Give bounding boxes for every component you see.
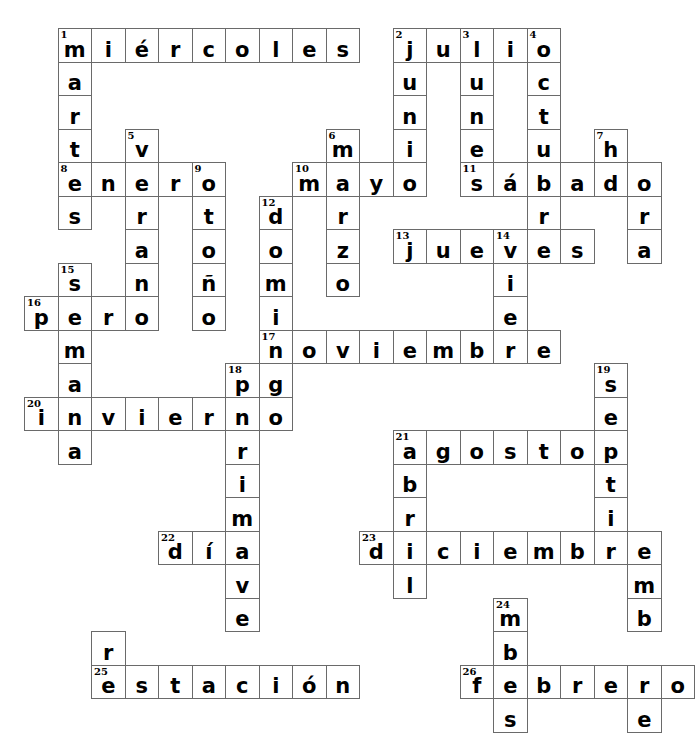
- crossword-cell[interactable]: 9o: [192, 162, 227, 197]
- crossword-cell[interactable]: í: [192, 531, 227, 566]
- crossword-cell[interactable]: i: [493, 28, 528, 63]
- crossword-cell[interactable]: b: [527, 665, 562, 700]
- crossword-cell[interactable]: a: [225, 531, 260, 566]
- crossword-cell[interactable]: b: [627, 598, 662, 633]
- crossword-cell[interactable]: r: [627, 196, 662, 231]
- crossword-cell[interactable]: i: [594, 497, 629, 532]
- crossword-cell[interactable]: o: [460, 430, 495, 465]
- crossword-cell[interactable]: m: [259, 263, 294, 298]
- crossword-cell[interactable]: g: [259, 363, 294, 398]
- crossword-cell[interactable]: g: [426, 430, 461, 465]
- crossword-cell[interactable]: i: [125, 397, 160, 432]
- crossword-cell[interactable]: 16p: [24, 296, 59, 331]
- crossword-cell[interactable]: b: [560, 531, 595, 566]
- crossword-cell[interactable]: e: [158, 397, 193, 432]
- crossword-cell[interactable]: a: [58, 62, 93, 97]
- crossword-cell[interactable]: z: [326, 229, 361, 264]
- crossword-cell[interactable]: 26f: [460, 665, 495, 700]
- crossword-cell[interactable]: 18p: [225, 363, 260, 398]
- crossword-cell[interactable]: o: [292, 330, 327, 365]
- crossword-cell[interactable]: s: [125, 665, 160, 700]
- crossword-cell[interactable]: 6m: [326, 129, 361, 164]
- crossword-cell[interactable]: 10m: [292, 162, 327, 197]
- crossword-cell[interactable]: r: [125, 196, 160, 231]
- crossword-cell[interactable]: p: [594, 430, 629, 465]
- crossword-cell[interactable]: 17n: [259, 330, 294, 365]
- crossword-cell[interactable]: b: [527, 162, 562, 197]
- crossword-cell[interactable]: o: [393, 162, 428, 197]
- crossword-cell[interactable]: o: [192, 296, 227, 331]
- crossword-cell[interactable]: 4o: [527, 28, 562, 63]
- crossword-cell[interactable]: u: [393, 62, 428, 97]
- crossword-cell[interactable]: o: [192, 229, 227, 264]
- crossword-cell[interactable]: o: [125, 296, 160, 331]
- crossword-cell[interactable]: 2j: [393, 28, 428, 63]
- crossword-cell[interactable]: 11s: [460, 162, 495, 197]
- crossword-cell[interactable]: n: [125, 263, 160, 298]
- crossword-cell[interactable]: i: [225, 464, 260, 499]
- crossword-cell[interactable]: o: [627, 162, 662, 197]
- crossword-cell[interactable]: r: [393, 497, 428, 532]
- crossword-cell[interactable]: 12d: [259, 196, 294, 231]
- crossword-cell[interactable]: u: [460, 62, 495, 97]
- crossword-cell[interactable]: 25e: [91, 665, 126, 700]
- crossword-cell[interactable]: b: [393, 464, 428, 499]
- crossword-cell[interactable]: r: [91, 296, 126, 331]
- crossword-cell[interactable]: e: [460, 229, 495, 264]
- crossword-cell[interactable]: n: [225, 397, 260, 432]
- crossword-cell[interactable]: e: [594, 665, 629, 700]
- crossword-cell[interactable]: t: [192, 196, 227, 231]
- crossword-cell[interactable]: s: [493, 698, 528, 733]
- crossword-cell[interactable]: a: [58, 430, 93, 465]
- crossword-cell[interactable]: e: [292, 28, 327, 63]
- crossword-cell[interactable]: i: [393, 129, 428, 164]
- crossword-cell[interactable]: m: [627, 564, 662, 599]
- crossword-cell[interactable]: i: [493, 263, 528, 298]
- crossword-cell[interactable]: i: [393, 531, 428, 566]
- crossword-cell[interactable]: e: [594, 397, 629, 432]
- crossword-cell[interactable]: r: [91, 631, 126, 666]
- crossword-cell[interactable]: r: [627, 665, 662, 700]
- crossword-cell[interactable]: e: [58, 296, 93, 331]
- crossword-cell[interactable]: a: [560, 162, 595, 197]
- crossword-cell[interactable]: ñ: [192, 263, 227, 298]
- crossword-cell[interactable]: 21a: [393, 430, 428, 465]
- crossword-cell[interactable]: 22d: [158, 531, 193, 566]
- crossword-cell[interactable]: r: [594, 531, 629, 566]
- crossword-cell[interactable]: t: [527, 95, 562, 130]
- crossword-cell[interactable]: o: [259, 397, 294, 432]
- crossword-cell[interactable]: u: [527, 129, 562, 164]
- crossword-cell[interactable]: 13j: [393, 229, 428, 264]
- crossword-cell[interactable]: e: [493, 296, 528, 331]
- crossword-cell[interactable]: e: [627, 531, 662, 566]
- crossword-cell[interactable]: á: [493, 162, 528, 197]
- crossword-cell[interactable]: t: [594, 464, 629, 499]
- crossword-cell[interactable]: c: [192, 28, 227, 63]
- crossword-cell[interactable]: e: [527, 229, 562, 264]
- crossword-cell[interactable]: 1m: [58, 28, 93, 63]
- crossword-cell[interactable]: e: [225, 598, 260, 633]
- crossword-cell[interactable]: n: [393, 95, 428, 130]
- crossword-cell[interactable]: c: [225, 665, 260, 700]
- crossword-cell[interactable]: 19s: [594, 363, 629, 398]
- crossword-cell[interactable]: a: [627, 229, 662, 264]
- crossword-cell[interactable]: e: [527, 330, 562, 365]
- crossword-cell[interactable]: o: [225, 28, 260, 63]
- crossword-cell[interactable]: r: [493, 330, 528, 365]
- crossword-cell[interactable]: a: [125, 229, 160, 264]
- crossword-cell[interactable]: b: [460, 330, 495, 365]
- crossword-cell[interactable]: n: [460, 95, 495, 130]
- crossword-cell[interactable]: t: [58, 129, 93, 164]
- crossword-cell[interactable]: 8e: [58, 162, 93, 197]
- crossword-cell[interactable]: e: [493, 531, 528, 566]
- crossword-cell[interactable]: o: [326, 263, 361, 298]
- crossword-cell[interactable]: t: [158, 665, 193, 700]
- crossword-cell[interactable]: m: [58, 330, 93, 365]
- crossword-cell[interactable]: l: [393, 564, 428, 599]
- crossword-cell[interactable]: ó: [292, 665, 327, 700]
- crossword-cell[interactable]: 7h: [594, 129, 629, 164]
- crossword-cell[interactable]: t: [527, 430, 562, 465]
- crossword-cell[interactable]: e: [493, 665, 528, 700]
- crossword-cell[interactable]: d: [594, 162, 629, 197]
- crossword-cell[interactable]: r: [158, 28, 193, 63]
